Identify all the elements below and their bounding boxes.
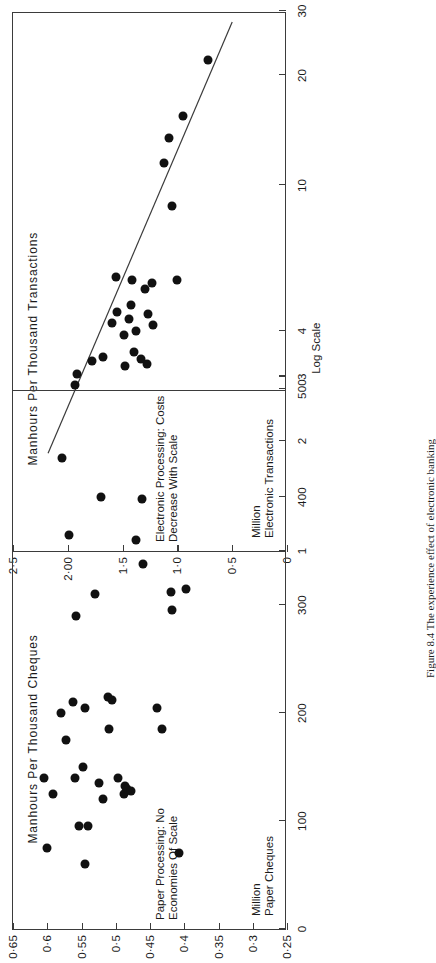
scatter-point (114, 773, 123, 782)
scatter-point (119, 330, 128, 339)
scatter-point (56, 709, 65, 718)
scatter-point (158, 725, 167, 734)
y-axis-tick-label: 0·25 (281, 935, 293, 963)
y-axis-tick (253, 923, 254, 930)
figure-caption: Figure 8.4 The experience effect of elec… (424, 439, 436, 678)
scatter-point (62, 736, 71, 745)
y-axis-tick-label: 0·35 (213, 935, 225, 963)
scatter-point (39, 773, 48, 782)
scatter-point (173, 276, 182, 285)
x-axis-tick-label: 100 (296, 811, 308, 831)
y-axis-tick (13, 923, 14, 930)
scatter-point (80, 703, 89, 712)
scatter-point (78, 763, 87, 772)
y-axis-tick-label: 0·6 (41, 935, 53, 963)
scatter-point (70, 773, 79, 782)
y-axis-tick (150, 923, 151, 930)
scatter-point (181, 584, 190, 593)
x-axis-tick (279, 496, 286, 497)
scatter-point (128, 276, 137, 285)
scatter-point (148, 279, 157, 288)
scatter-point (112, 273, 121, 282)
x-axis-tick (279, 712, 286, 713)
scatter-point (65, 530, 74, 539)
x-axis-tick-label: 500 (296, 379, 308, 399)
scatter-point (129, 348, 138, 357)
scatter-point (95, 779, 104, 788)
scatter-point (174, 849, 183, 858)
scatter-point (107, 319, 116, 328)
scatter-point (137, 495, 146, 504)
scatter-point (167, 606, 176, 615)
x-axis-tick-label: 20 (296, 69, 308, 82)
scatter-point (96, 493, 105, 502)
x-axis-tick-label: 30 (296, 4, 308, 17)
x-axis-tick-label: 4 (296, 328, 308, 335)
scatter-point (127, 301, 136, 310)
scatter-point (178, 111, 187, 120)
x-axis-tick-label: 0 (296, 926, 308, 933)
y-axis-tick-label: 0·4 (178, 935, 190, 963)
scatter-point (152, 703, 161, 712)
scatter-point (98, 352, 107, 361)
scatter-point (139, 559, 148, 568)
scatter-point (84, 822, 93, 831)
scatter-point (87, 357, 96, 366)
scatter-point (120, 362, 129, 371)
y-axis-tick (47, 923, 48, 930)
x-axis-tick (279, 928, 286, 929)
scatter-point (108, 696, 117, 705)
y-axis-tick (184, 923, 185, 930)
y-axis-tick (82, 923, 83, 930)
scatter-point (99, 795, 108, 804)
plot-area-paper: 01002003004005000·250·30·350·40·450·50·5… (13, 391, 285, 929)
scatter-point (80, 860, 89, 869)
plot-frame-paper: 01002003004005000·250·30·350·40·450·50·5… (12, 390, 286, 930)
x-axis-tick (279, 388, 286, 389)
scatter-point (143, 309, 152, 318)
scatter-point (126, 786, 135, 795)
scatter-point (131, 326, 140, 335)
scatter-point (164, 133, 173, 142)
scatter-point (166, 588, 175, 597)
y-axis-tick (219, 923, 220, 930)
scatter-point (72, 611, 81, 620)
scatter-point (132, 536, 141, 545)
x-axis-scale-note-electronic: Log Scale (310, 323, 322, 374)
x-axis-tick (279, 820, 286, 821)
y-axis-tick (116, 923, 117, 930)
scatter-point (75, 822, 84, 831)
scatter-point (91, 590, 100, 599)
y-axis-tick-label: 0·55 (76, 935, 88, 963)
scatter-point (72, 369, 81, 378)
scatter-point (48, 790, 57, 799)
x-axis-tick-label: 10 (296, 179, 308, 192)
x-axis-tick (279, 604, 286, 605)
scatter-point (43, 844, 52, 853)
chart-panel-paper-processing: Paper Processing: No Economies Of Scale … (2, 382, 320, 963)
y-axis-tick (287, 923, 288, 930)
scatter-point (113, 308, 122, 317)
scatter-point (167, 201, 176, 210)
scatter-point (125, 315, 134, 324)
scatter-point (69, 698, 78, 707)
x-axis-tick-label: 300 (296, 595, 308, 615)
y-axis-tick-label: 0·3 (247, 935, 259, 963)
x-axis-tick-label: 400 (296, 487, 308, 507)
scatter-point (149, 321, 158, 330)
y-axis-tick-label: 0·5 (110, 935, 122, 963)
x-axis-tick-label: 200 (296, 703, 308, 723)
scatter-point (104, 725, 113, 734)
scatter-point (160, 159, 169, 168)
scatter-point (204, 56, 213, 65)
y-axis-tick-label: 0·45 (144, 935, 156, 963)
scatter-point (142, 359, 151, 368)
scatter-point (140, 285, 149, 294)
y-axis-tick-label: 0·65 (7, 935, 19, 963)
